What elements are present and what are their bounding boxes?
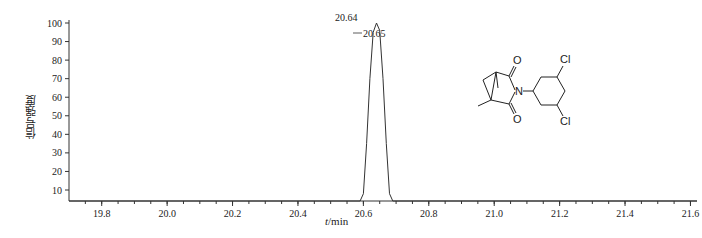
chlorine-top-label: Cl <box>560 53 570 65</box>
x-tick-label: 19.8 <box>93 208 111 219</box>
x-tick-label: 20.0 <box>158 208 176 219</box>
y-tick-label: 60 <box>52 92 62 103</box>
x-tick-label: 21.0 <box>485 208 503 219</box>
peak-label-20-64: 20.64 <box>335 12 358 23</box>
y-tick-label: 10 <box>52 185 62 196</box>
nitrogen-label: N <box>515 85 523 97</box>
x-tick-label: 20.4 <box>289 208 307 219</box>
y-tick-label: 20 <box>52 166 62 177</box>
x-tick-label: 21.4 <box>616 208 634 219</box>
x-axis-ticks: 19.820.020.220.420.620.821.021.221.421.6 <box>85 201 699 219</box>
y-tick-label: 50 <box>52 110 62 121</box>
y-axis-label: 信号强度 <box>24 95 40 139</box>
x-tick-label: 20.6 <box>355 208 373 219</box>
x-tick-label: 20.2 <box>224 208 242 219</box>
y-tick-label: 100 <box>47 18 62 29</box>
oxygen-bottom-label: O <box>513 113 522 125</box>
chromatogram-trace <box>69 23 697 201</box>
x-tick-label: 21.6 <box>682 208 700 219</box>
y-tick-label: 40 <box>52 129 62 140</box>
x-tick-label: 20.8 <box>420 208 438 219</box>
peak-label-20-65: 20.65 <box>363 28 386 39</box>
y-tick-label: 30 <box>52 147 62 158</box>
x-axis-label: t/min <box>325 215 348 227</box>
x-tick-label: 21.2 <box>551 208 569 219</box>
oxygen-top-label: O <box>513 54 522 66</box>
axes <box>69 20 697 201</box>
y-tick-label: 90 <box>52 36 62 47</box>
chromatogram-chart: 102030405060708090100 19.820.020.220.420… <box>0 0 702 238</box>
y-axis-ticks: 102030405060708090100 <box>47 18 69 196</box>
y-tick-label: 70 <box>52 73 62 84</box>
chlorine-bottom-label: Cl <box>560 115 570 127</box>
y-tick-label: 80 <box>52 55 62 66</box>
x-axis-unit: /min <box>328 215 348 227</box>
